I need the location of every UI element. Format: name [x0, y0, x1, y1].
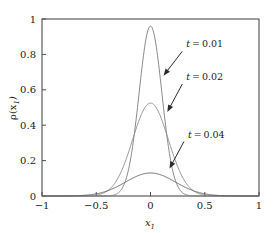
- density-curves: [42, 26, 259, 196]
- y-axis-ticks: [42, 19, 46, 196]
- y-tick-label: 0.8: [20, 49, 36, 60]
- annotation-t-002-label: t = 0.02: [186, 71, 223, 82]
- annotation-t-001-arrowhead: [164, 68, 170, 75]
- annotation-t-002-arrowhead: [167, 104, 173, 111]
- y-axis-tick-labels: 00.20.40.60.81: [20, 14, 36, 202]
- x-tick-label: −1: [35, 200, 50, 211]
- y-tick-label: 0: [30, 191, 36, 202]
- x-tick-label: 0: [147, 200, 153, 211]
- x-axis-title: x1: [145, 217, 155, 231]
- annotation-t-002-arrow: [170, 84, 182, 107]
- annotation-t-001-label: t = 0.01: [186, 38, 223, 49]
- annotation-t-004-arrow: [172, 142, 184, 164]
- curve-t-0-02: [42, 103, 259, 196]
- curve-t-0-01: [42, 26, 259, 196]
- y-tick-label: 0.2: [20, 155, 36, 166]
- x-tick-label: 0.5: [197, 200, 213, 211]
- density-plot: −1−0.500.51 00.20.40.60.81 t = 0.01t = 0…: [0, 0, 274, 233]
- y-tick-label: 0.6: [20, 84, 36, 95]
- x-tick-label: −0.5: [84, 200, 108, 211]
- figure-container: −1−0.500.51 00.20.40.60.81 t = 0.01t = 0…: [0, 0, 274, 233]
- annotation-t-001-arrow: [167, 51, 182, 71]
- x-tick-label: 1: [256, 200, 262, 211]
- x-axis-tick-labels: −1−0.500.51: [35, 200, 263, 211]
- annotation-t-004-label: t = 0.04: [188, 129, 225, 140]
- y-axis-title: ρ(x1): [7, 96, 21, 120]
- curve-annotations: t = 0.01t = 0.02t = 0.04: [164, 38, 225, 168]
- y-tick-label: 1: [30, 14, 36, 25]
- y-tick-label: 0.4: [20, 120, 36, 131]
- plot-frame: [42, 19, 259, 196]
